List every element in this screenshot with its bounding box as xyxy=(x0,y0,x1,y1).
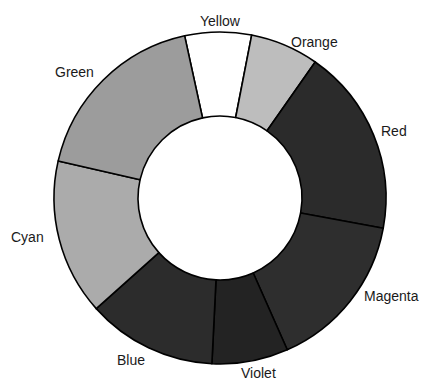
label-red: Red xyxy=(381,123,407,139)
label-blue: Blue xyxy=(117,352,145,368)
label-cyan: Cyan xyxy=(11,229,44,245)
label-violet: Violet xyxy=(241,365,276,381)
donut-chart xyxy=(0,0,434,390)
slice-green xyxy=(58,36,202,180)
label-magenta: Magenta xyxy=(364,288,418,304)
label-yellow: Yellow xyxy=(200,13,240,29)
label-orange: Orange xyxy=(291,34,338,50)
label-green: Green xyxy=(55,64,94,80)
